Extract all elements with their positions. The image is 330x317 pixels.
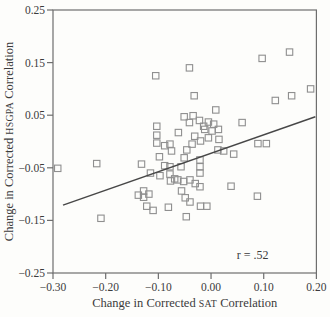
- x-tick-label: 0.00: [201, 281, 221, 293]
- correlation-label: r = .52: [237, 248, 269, 262]
- y-tick-label: 0.25: [25, 4, 45, 16]
- scatter-plot-svg: 0.250.150.05−0.05−0.15−0.25−0.30−0.20−0.…: [0, 0, 330, 317]
- figure-background: [0, 0, 330, 317]
- y-tick-label: 0.15: [25, 57, 45, 69]
- y-axis-title: Change in Corrected HSGPA Correlation: [2, 41, 16, 241]
- y-tick-label: −0.05: [18, 162, 45, 174]
- y-tick-label: −0.15: [18, 214, 45, 226]
- x-tick-label: 0.20: [306, 281, 326, 293]
- x-tick-label: −0.10: [145, 281, 172, 293]
- x-axis-title: Change in Corrected SAT Correlation: [92, 296, 278, 310]
- y-tick-label: −0.25: [18, 267, 45, 279]
- y-tick-label: 0.05: [25, 109, 45, 121]
- x-tick-label: −0.30: [40, 281, 67, 293]
- scatter-plot: 0.250.150.05−0.05−0.15−0.25−0.30−0.20−0.…: [0, 0, 330, 317]
- x-tick-label: −0.20: [92, 281, 119, 293]
- scatter-figure: 0.250.150.05−0.05−0.15−0.25−0.30−0.20−0.…: [0, 0, 330, 317]
- x-tick-label: 0.10: [254, 281, 274, 293]
